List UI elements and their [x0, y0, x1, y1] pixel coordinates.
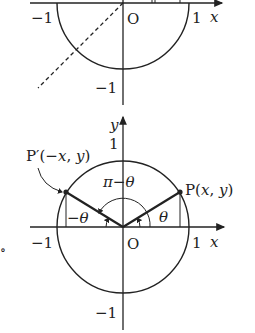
label-neg-one-x: −1: [31, 234, 53, 252]
label-one-x: 1: [192, 9, 202, 27]
unit-circle-diagrams: −1 O 1 x −1 y 1 P′(−x, y) P(x, y) π−θ: [0, 0, 255, 333]
point-p: [177, 189, 182, 194]
label-p: P(x, y): [185, 181, 233, 199]
label-neg-theta: −θ: [67, 209, 89, 227]
label-p-prime: P′(−x, y): [26, 147, 90, 165]
label-theta: θ: [159, 208, 168, 226]
label-neg-one-y: −1: [95, 79, 117, 97]
label-origin: O: [127, 10, 139, 28]
label-neg-one-y: −1: [95, 304, 117, 322]
theta-arc: [138, 218, 141, 227]
bottom-figure: y 1 P′(−x, y) P(x, y) π−θ −θ θ −1 O 1 x …: [0, 116, 233, 330]
label-x-axis: x: [210, 233, 219, 251]
label-y-axis: y: [109, 116, 119, 134]
label-x-axis: x: [210, 8, 219, 26]
neg-theta-arc: [106, 218, 109, 227]
label-neg-one-x: −1: [31, 9, 53, 27]
p-prime-leader: [38, 168, 62, 192]
label-pi-minus-theta: π−θ: [102, 173, 134, 191]
point-p-prime: [63, 189, 68, 194]
label-origin: O: [127, 235, 139, 253]
margin-mark: ∘: [0, 243, 6, 257]
radius-op: [123, 192, 180, 227]
label-one-x: 1: [192, 234, 202, 252]
top-figure: −1 O 1 x −1: [30, 0, 222, 105]
label-one-y: 1: [109, 135, 119, 153]
